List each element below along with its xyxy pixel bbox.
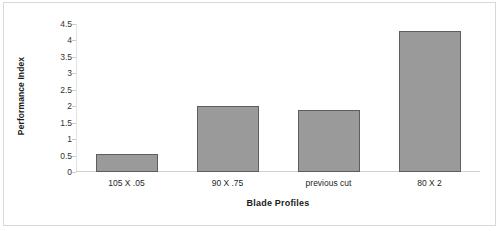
bar-chart: Performance Index 4.543.532.521.510.50 1… — [0, 0, 500, 231]
y-tick-mark — [72, 24, 76, 25]
bar — [298, 110, 360, 172]
y-tick-label: 1 — [30, 134, 76, 144]
bar-slot — [278, 24, 379, 172]
y-tick-label: 4.5 — [30, 19, 76, 29]
bar-slot — [76, 24, 177, 172]
y-tick-label: 2.5 — [30, 85, 76, 95]
y-tick-mark — [72, 123, 76, 124]
x-axis-tick-labels: 105 X .0590 X .75previous cut80 X 2 — [76, 176, 480, 190]
bar — [197, 106, 259, 172]
y-tick-label: 0.5 — [30, 151, 76, 161]
x-tick-label: previous cut — [278, 176, 379, 190]
x-tick-label: 105 X .05 — [76, 176, 177, 190]
bar-slot — [379, 24, 480, 172]
y-tick-mark — [72, 139, 76, 140]
y-tick-label: 1.5 — [30, 118, 76, 128]
y-tick-label: 0 — [30, 167, 76, 177]
x-axis-title: Blade Profiles — [76, 198, 480, 208]
y-tick-mark — [72, 90, 76, 91]
x-tick-label: 90 X .75 — [177, 176, 278, 190]
bar — [399, 31, 461, 172]
x-tick-label: 80 X 2 — [379, 176, 480, 190]
bar-slot — [177, 24, 278, 172]
y-tick-mark — [72, 172, 76, 173]
bar-series — [76, 24, 480, 172]
y-tick-label: 3.5 — [30, 52, 76, 62]
y-tick-mark — [72, 156, 76, 157]
plot-area — [76, 24, 480, 172]
y-tick-mark — [72, 106, 76, 107]
bar — [96, 154, 158, 172]
y-tick-label: 2 — [30, 101, 76, 111]
y-tick-mark — [72, 57, 76, 58]
y-axis-tick-labels: 4.543.532.521.510.50 — [0, 0, 76, 231]
y-tick-label: 4 — [30, 35, 76, 45]
y-tick-mark — [72, 40, 76, 41]
y-tick-mark — [72, 73, 76, 74]
y-tick-label: 3 — [30, 68, 76, 78]
